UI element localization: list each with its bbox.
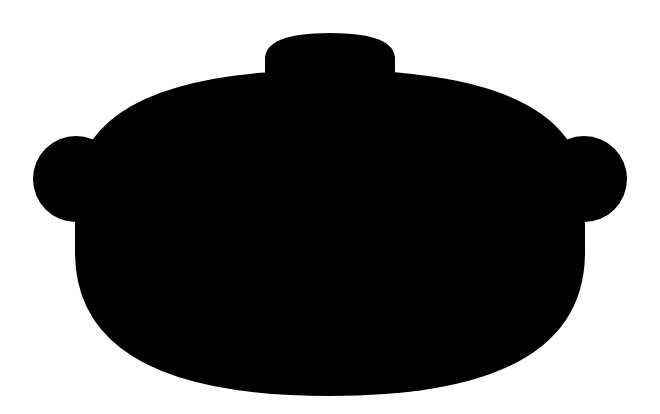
lid-knob-shape — [265, 33, 395, 82]
cooking-pot-silhouette-svg: Cooking Pot Silhouette — [0, 0, 660, 414]
artwork-canvas: Cooking Pot Silhouette — [0, 0, 660, 414]
